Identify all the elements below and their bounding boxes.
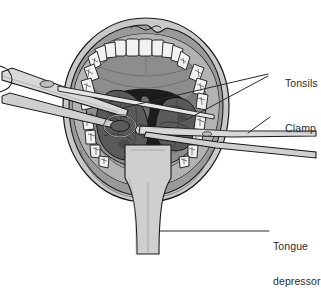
label-clamp: Clamp: [273, 111, 316, 146]
label-clamp-text: Clamp: [285, 122, 316, 134]
label-tongue-depressor: Tongue depressor: [273, 218, 321, 291]
label-tongue-depressor-line1: Tongue: [273, 241, 321, 253]
label-tongue-depressor-line2: depressor: [273, 276, 321, 288]
label-tonsils-text: Tonsils: [285, 77, 318, 89]
label-tonsils: Tonsils: [273, 66, 318, 101]
